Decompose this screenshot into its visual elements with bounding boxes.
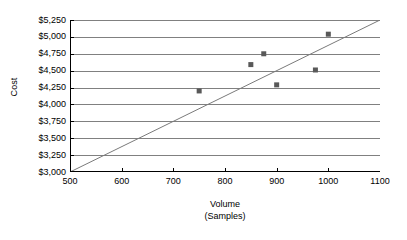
y-axis-tick-labels: $3,000$3,250$3,500$3,750$4,000$4,250$4,5…	[14, 20, 66, 172]
y-tick-label-3750: $3,750	[14, 117, 66, 126]
y-tick-label-4500: $4,500	[14, 66, 66, 75]
x-tick-label-500: 500	[45, 176, 95, 187]
y-tick-label-4750: $4,750	[14, 49, 66, 58]
data-point-750-4200	[197, 88, 202, 93]
y-tick-label-4250: $4,250	[14, 83, 66, 92]
data-point-1000-5040	[326, 32, 331, 37]
x-axis-tick-labels: 50060070080090010001100	[70, 176, 380, 190]
plot-svg	[70, 20, 380, 172]
x-tick-label-1000: 1000	[303, 176, 353, 187]
x-tick-label-900: 900	[252, 176, 302, 187]
gridlines	[70, 21, 380, 156]
plot-area	[70, 20, 380, 172]
y-tick-label-3500: $3,500	[14, 134, 66, 143]
y-tick-label-5000: $5,000	[14, 32, 66, 41]
y-tick-label-5250: $5,250	[14, 16, 66, 25]
data-point-markers	[197, 32, 331, 94]
data-point-975-4510	[313, 67, 318, 72]
data-point-900-4290	[274, 82, 279, 87]
x-tick-label-1100: 1100	[355, 176, 405, 187]
x-axis-title-line-2: (Samples)	[70, 210, 380, 222]
x-tick-label-800: 800	[200, 176, 250, 187]
x-axis-title-line-1: Volume	[70, 198, 380, 210]
x-tick-label-600: 600	[97, 176, 147, 187]
x-axis-title: Volume (Samples)	[70, 198, 380, 222]
cost-vs-volume-chart: Cost $3,000$3,250$3,500$3,750$4,000$4,25…	[0, 0, 407, 240]
reference-line	[70, 20, 380, 172]
y-tick-label-4000: $4,000	[14, 100, 66, 109]
data-point-875-4750	[261, 51, 266, 56]
data-point-850-4590	[248, 62, 253, 67]
reference-line-segment	[70, 20, 380, 172]
x-tick-label-700: 700	[148, 176, 198, 187]
y-tick-label-3250: $3,250	[14, 151, 66, 160]
